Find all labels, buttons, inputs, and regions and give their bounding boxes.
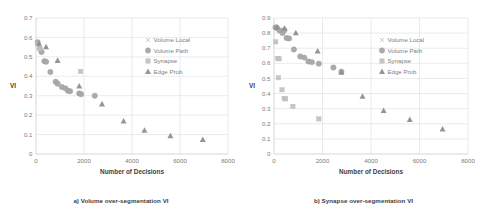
scatter-plot-a: 00.10.20.30.40.50.60.702000400060008000N… [0, 6, 242, 182]
y-tick-label: 0.6 [262, 59, 271, 66]
data-point-circle [379, 48, 384, 53]
data-point-square [280, 88, 284, 92]
data-point-circle [302, 55, 307, 60]
chart-legend: Volume LocalVolume PathSynapseEdge Prob [145, 36, 190, 75]
y-tick-label: 0.4 [262, 90, 271, 97]
y-tick-label: 0.3 [262, 105, 271, 112]
data-point-triangle [55, 57, 61, 63]
data-point-square [146, 59, 150, 63]
scatter-plot-b: 00.10.20.30.40.50.60.70.80.9020004000600… [242, 6, 485, 182]
y-tick-label: 0.9 [262, 14, 271, 21]
data-point-square [273, 40, 277, 44]
x-axis-title: Number of Decisions [339, 168, 403, 175]
series-volume-local [35, 41, 82, 74]
y-tick-label: 0.8 [262, 29, 271, 36]
data-point-square [277, 57, 281, 61]
y-tick-label: 0.5 [24, 53, 33, 60]
legend-label: Volume Path [154, 47, 189, 54]
y-tick-label: 0.2 [262, 120, 271, 127]
series-synapse [35, 41, 82, 73]
data-point-triangle [379, 69, 385, 75]
data-point-triangle [407, 117, 413, 123]
data-point-triangle [141, 127, 147, 133]
data-point-triangle [43, 44, 49, 50]
data-point-square [380, 59, 384, 63]
data-point-triangle [360, 93, 366, 99]
data-point-triangle [200, 136, 206, 142]
chart-plot-b: 00.10.20.30.40.50.60.70.80.9020004000600… [242, 6, 484, 182]
data-point-circle [286, 36, 291, 41]
x-tick-label: 8000 [221, 157, 235, 164]
series-volume-path [273, 25, 344, 75]
data-point-triangle [315, 48, 321, 54]
legend-label: Volume Path [388, 47, 423, 54]
legend-label: Synapse [154, 57, 178, 64]
data-point-circle [331, 65, 336, 70]
x-tick-label: 4000 [364, 157, 378, 164]
x-tick-label: 8000 [461, 157, 475, 164]
figure-container: 00.10.20.30.40.50.60.702000400060008000N… [0, 0, 485, 212]
legend-label: Volume Local [154, 36, 191, 43]
data-point-circle [78, 91, 83, 96]
y-axis-title: VI [10, 82, 16, 89]
x-tick-label: 2000 [77, 157, 91, 164]
y-tick-label: 0.3 [24, 92, 33, 99]
x-axis-title: Number of Decisions [100, 168, 164, 175]
chart-panel-a: 00.10.20.30.40.50.60.702000400060008000N… [0, 0, 242, 212]
data-point-square [276, 75, 280, 79]
data-point-square [283, 97, 287, 101]
data-point-circle [316, 61, 321, 66]
x-tick-label: 0 [34, 157, 38, 164]
data-point-circle [67, 89, 72, 94]
data-point-x [146, 38, 150, 42]
data-point-square [291, 104, 295, 108]
data-point-circle [43, 59, 48, 64]
chart-plot-a: 00.10.20.30.40.50.60.702000400060008000N… [0, 6, 242, 182]
panel-caption-b: b) Synapse over-segmentation VI [242, 197, 485, 204]
y-tick-label: 0 [29, 150, 33, 157]
x-tick-label: 2000 [316, 157, 330, 164]
x-tick-label: 4000 [125, 157, 139, 164]
y-tick-label: 0.1 [262, 135, 271, 142]
data-point-x [380, 38, 384, 42]
y-tick-label: 0.4 [24, 72, 33, 79]
data-point-triangle [293, 30, 299, 36]
y-tick-label: 0.1 [24, 131, 33, 138]
series-edge-prob [36, 40, 206, 142]
chart-panel-b: 00.10.20.30.40.50.60.70.80.9020004000600… [242, 0, 485, 212]
y-tick-label: 0.5 [262, 75, 271, 82]
y-tick-label: 0.7 [262, 44, 271, 51]
data-point-circle [291, 47, 296, 52]
data-point-triangle [121, 118, 127, 124]
panel-caption-a: a) Volume over-segmentation VI [0, 197, 242, 204]
data-point-square [37, 46, 41, 50]
y-tick-label: 0.2 [24, 111, 33, 118]
legend-label: Synapse [388, 57, 412, 64]
y-tick-label: 0 [267, 150, 271, 157]
y-tick-label: 0.7 [24, 14, 33, 21]
legend-label: Volume Local [388, 36, 425, 43]
x-tick-label: 0 [272, 157, 276, 164]
data-point-circle [48, 69, 53, 74]
data-point-triangle [76, 83, 82, 89]
data-point-circle [309, 59, 314, 64]
series-synapse [273, 40, 321, 121]
legend-label: Edge Prob [154, 68, 183, 75]
y-tick-label: 0.6 [24, 34, 33, 41]
data-point-triangle [99, 101, 105, 107]
legend-label: Edge Prob [388, 68, 417, 75]
y-axis-title: VI [249, 82, 255, 89]
data-point-circle [92, 93, 97, 98]
x-tick-label: 6000 [413, 157, 427, 164]
data-point-triangle [281, 25, 287, 31]
data-point-triangle [145, 69, 151, 75]
data-point-square [78, 69, 82, 73]
data-point-triangle [167, 133, 173, 139]
data-point-triangle [381, 107, 387, 113]
data-point-triangle [440, 126, 446, 132]
chart-legend: Volume LocalVolume PathSynapseEdge Prob [379, 36, 424, 75]
data-point-circle [145, 48, 150, 53]
data-point-square [317, 117, 321, 121]
x-tick-label: 6000 [173, 157, 187, 164]
